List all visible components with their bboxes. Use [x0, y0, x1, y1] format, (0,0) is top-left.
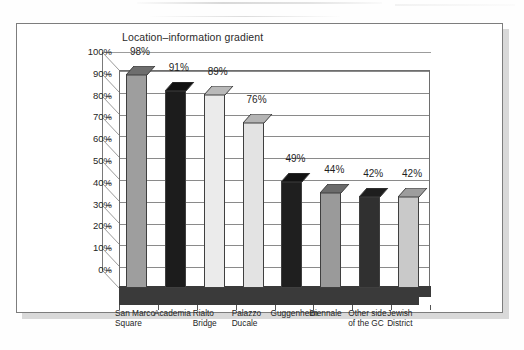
bar-top-cap — [398, 188, 419, 197]
bar-value-label: 98% — [130, 46, 150, 57]
bar-front-face — [204, 94, 225, 288]
bar-value-label: 49% — [285, 153, 305, 164]
bar-top-cap — [126, 66, 147, 75]
bar-top-cap — [320, 184, 341, 193]
bar-front-face — [398, 196, 419, 288]
scan-artifact-top — [137, 2, 382, 4]
bar-value-label: 89% — [208, 66, 228, 77]
y-axis-labels: 100%90%80%70%60%50%40%30%20%10%0% — [60, 23, 112, 313]
x-axis-tick — [119, 305, 120, 310]
y-axis-tick — [106, 139, 111, 140]
bar-front-face — [243, 122, 264, 288]
bar-top-cap — [281, 173, 302, 182]
bar-value-label: 42% — [402, 168, 422, 179]
bar — [243, 122, 264, 288]
x-axis-tick — [158, 305, 159, 310]
bar-value-label: 76% — [247, 94, 267, 105]
bar-front-face — [320, 192, 341, 288]
y-axis-tick — [106, 117, 111, 118]
chart-floor-front — [119, 296, 419, 305]
bar-top-cap — [359, 188, 380, 197]
x-axis-labels: San Marco SquareAcademiaRialto BridgePal… — [119, 307, 437, 333]
bar-value-label: 42% — [363, 168, 383, 179]
y-axis-tick — [106, 248, 111, 249]
bar-chart: Location–information gradient 100%90%80%… — [16, 23, 503, 313]
bar-front-face — [281, 181, 302, 288]
chart-title: Location–information gradient — [122, 31, 263, 43]
x-axis-tick — [275, 305, 276, 310]
bar — [204, 94, 225, 288]
y-axis-tick — [106, 52, 111, 53]
y-axis-tick — [106, 74, 111, 75]
x-axis-tick — [313, 305, 314, 310]
bar-front-face — [126, 74, 147, 288]
bar-top-cap — [165, 82, 186, 91]
bar-top-cap — [243, 114, 264, 123]
bar-series — [119, 70, 430, 288]
bar — [398, 196, 419, 288]
x-axis-tick — [236, 305, 237, 310]
x-axis-tick — [430, 305, 431, 310]
y-axis-tick — [106, 226, 111, 227]
bar — [359, 196, 380, 288]
bar-value-label: 44% — [324, 164, 344, 175]
y-axis-tick — [106, 161, 111, 162]
chart-floor — [119, 286, 431, 305]
scan-artifact-mid — [150, 16, 340, 17]
y-axis-tick — [106, 205, 111, 206]
bar — [281, 181, 302, 288]
y-axis-tick — [106, 270, 111, 271]
bar-front-face — [165, 90, 186, 288]
figure-page: Location–information gradient 100%90%80%… — [0, 0, 524, 350]
bar-top-cap — [204, 86, 225, 95]
bar — [165, 90, 186, 288]
bar — [126, 74, 147, 288]
x-axis-category-label: Jewish District — [387, 309, 434, 328]
bar — [320, 192, 341, 288]
y-axis-tick — [106, 183, 111, 184]
bar-front-face — [359, 196, 380, 288]
x-axis-tick — [391, 305, 392, 310]
x-axis-tick — [352, 305, 353, 310]
y-axis-tick — [106, 96, 111, 97]
scan-artifact-right — [395, 4, 515, 6]
x-axis-tick — [197, 305, 198, 310]
plot-back-top-edge — [102, 52, 431, 53]
bar-value-label: 91% — [169, 62, 189, 73]
